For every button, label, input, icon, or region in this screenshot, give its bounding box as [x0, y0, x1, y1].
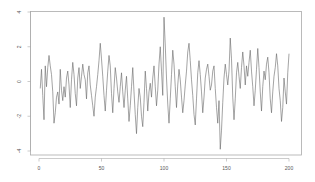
series-line [40, 17, 289, 149]
x-tick-label: 0 [38, 165, 41, 171]
y-tick-label: 4 [16, 10, 22, 13]
y-tick-label: -4 [16, 149, 22, 154]
y-axis: 420-2-4 [16, 10, 31, 153]
y-tick-label: 0 [16, 80, 22, 83]
y-tick-label: -2 [16, 114, 22, 119]
x-tick-label: 200 [285, 165, 294, 171]
x-tick-label: 100 [160, 165, 169, 171]
x-tick-label: 150 [222, 165, 231, 171]
x-axis: 050100150200 [38, 159, 294, 172]
y-tick-label: 2 [16, 45, 22, 48]
x-tick-label: 50 [99, 165, 105, 171]
line-chart: 420-2-4 050100150200 [0, 0, 315, 182]
